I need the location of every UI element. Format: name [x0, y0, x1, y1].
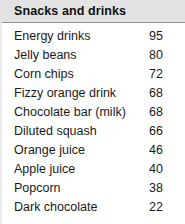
row-value: 40	[145, 162, 163, 176]
table-row: Apple juice 40	[0, 162, 185, 181]
row-label: Dark chocolate	[14, 200, 145, 214]
row-label: Chocolate bar (milk)	[14, 105, 145, 119]
row-label: Orange juice	[14, 143, 145, 157]
table-row: Dark chocolate 22	[0, 200, 185, 219]
table-body: Energy drinks 95 Jelly beans 80 Corn chi…	[0, 23, 185, 219]
row-label: Energy drinks	[14, 29, 145, 43]
row-label: Corn chips	[14, 67, 145, 81]
snacks-and-drinks-table: Snacks and drinks Energy drinks 95 Jelly…	[0, 0, 185, 224]
table-header: Snacks and drinks	[0, 0, 185, 22]
row-label: Apple juice	[14, 162, 145, 176]
table-row: Jelly beans 80	[0, 48, 185, 67]
row-label: Fizzy orange drink	[14, 86, 145, 100]
table-row: Corn chips 72	[0, 67, 185, 86]
table-row: Chocolate bar (milk) 68	[0, 105, 185, 124]
row-value: 66	[145, 124, 163, 138]
row-value: 68	[145, 105, 163, 119]
row-value: 38	[145, 181, 163, 195]
row-value: 22	[145, 200, 163, 214]
table-row: Fizzy orange drink 68	[0, 86, 185, 105]
row-label: Diluted squash	[14, 124, 145, 138]
table-title: Snacks and drinks	[14, 4, 126, 18]
table-row: Diluted squash 66	[0, 124, 185, 143]
table-row: Popcorn 38	[0, 181, 185, 200]
row-value: 46	[145, 143, 163, 157]
row-value: 68	[145, 86, 163, 100]
row-value: 80	[145, 48, 163, 62]
row-label: Jelly beans	[14, 48, 145, 62]
table-row: Energy drinks 95	[0, 29, 185, 48]
table-row: Orange juice 46	[0, 143, 185, 162]
row-label: Popcorn	[14, 181, 145, 195]
row-value: 95	[145, 29, 163, 43]
row-value: 72	[145, 67, 163, 81]
